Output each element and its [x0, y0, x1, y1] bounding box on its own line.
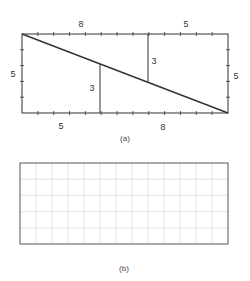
- figure-a: [20, 32, 230, 115]
- label-bottom-right: 8: [160, 122, 165, 132]
- grid-lines: [20, 163, 228, 244]
- label-top-right: 5: [183, 19, 188, 29]
- diagram-canvas: 8 5 5 5 5 8 3 3 (a) (b): [0, 0, 250, 281]
- label-right: 5: [233, 71, 238, 81]
- grid-border: [20, 163, 228, 244]
- caption-b: (b): [119, 264, 129, 273]
- label-bottom-left: 5: [58, 121, 63, 131]
- label-lower-vertical: 3: [89, 83, 94, 93]
- diagonal-line: [22, 34, 228, 113]
- label-upper-vertical: 3: [151, 56, 156, 66]
- caption-a: (a): [120, 134, 130, 143]
- label-left: 5: [10, 69, 15, 79]
- label-top-left: 8: [78, 19, 83, 29]
- figure-b: [20, 163, 228, 244]
